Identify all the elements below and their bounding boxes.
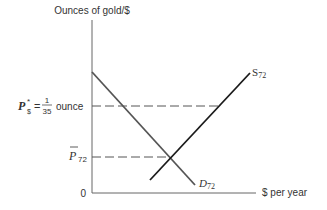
y-axis-label: Ounces of gold/$ (54, 5, 130, 16)
svg-text:P: P (18, 99, 26, 113)
x-axis-label: $ per year (262, 187, 308, 198)
svg-text:=: = (34, 100, 40, 112)
svg-text:1: 1 (45, 96, 50, 105)
svg-text:$: $ (27, 108, 31, 115)
supply-curve (150, 73, 250, 180)
svg-text:72: 72 (78, 155, 87, 164)
demand-label: D72 (198, 177, 215, 191)
origin-label: 0 (80, 188, 86, 199)
svg-text:*: * (27, 97, 30, 106)
gold-market-chart: Ounces of gold/$ 0 $ per year S72 D72 P … (0, 0, 327, 210)
svg-text:35: 35 (43, 107, 52, 116)
supply-label: S72 (252, 66, 266, 80)
svg-text:ounce: ounce (56, 101, 84, 112)
demand-curve (92, 72, 195, 185)
equilibrium-price-label: P 72 (68, 147, 87, 164)
svg-text:P: P (68, 149, 77, 163)
official-price-label: P * $ = 1 35 ounce (18, 96, 84, 116)
